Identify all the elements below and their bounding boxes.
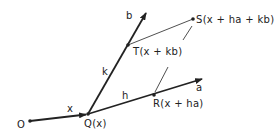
label-t: T(x + kb): [133, 47, 182, 57]
label-vector-k: k: [102, 67, 108, 77]
point-o: [28, 119, 32, 123]
label-vector-b: b: [126, 11, 133, 21]
label-vector-h: h: [122, 91, 129, 101]
label-vector-x: x: [67, 104, 73, 114]
point-q: [86, 112, 90, 116]
vector-diagram: O Q(x) R(x + ha) T(x + kb) S(x + ha + kb…: [0, 0, 278, 140]
point-s: [191, 17, 195, 21]
label-vector-a: a: [196, 83, 202, 93]
point-t: [126, 43, 130, 47]
label-r: R(x + ha): [153, 99, 204, 109]
point-r: [152, 93, 156, 97]
label-o: O: [17, 120, 25, 130]
leader-r: [155, 67, 168, 92]
leader-s: [183, 26, 192, 40]
vector-x-line: [30, 115, 86, 122]
segment-t-s: [128, 19, 193, 45]
label-q: Q(x): [84, 119, 107, 129]
label-s: S(x + ha + kb): [196, 15, 274, 25]
